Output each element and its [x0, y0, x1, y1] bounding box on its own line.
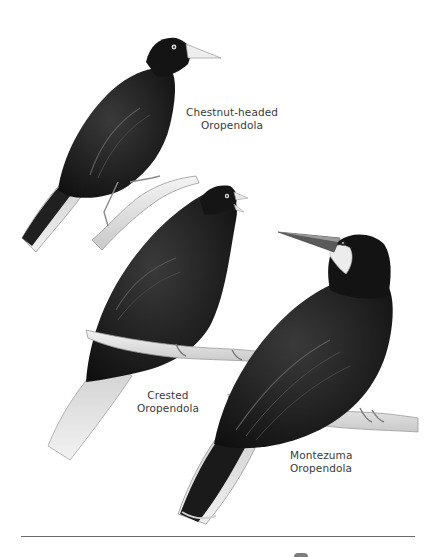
label-line-2: Oropendola: [290, 462, 370, 475]
divider-rule: [21, 536, 415, 537]
oropendola-illustration: [0, 0, 440, 557]
label-montezuma-oropendola: Montezuma Oropendola: [290, 449, 370, 475]
page-edge-mark: [294, 553, 308, 557]
label-line-1: Montezuma: [290, 449, 370, 462]
label-line-1: Chestnut-headed: [176, 106, 288, 119]
label-line-2: Oropendola: [128, 402, 208, 415]
label-line-2: Oropendola: [176, 119, 288, 132]
label-crested-oropendola: Crested Oropendola: [128, 389, 208, 415]
label-chestnut-headed-oropendola: Chestnut-headed Oropendola: [176, 106, 288, 132]
label-line-1: Crested: [128, 389, 208, 402]
